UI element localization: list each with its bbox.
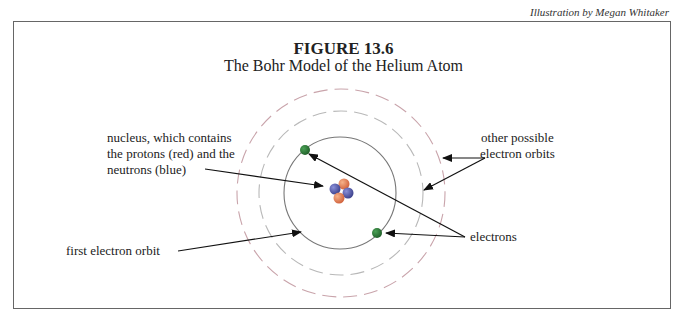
first-orbit-label: first electron orbit bbox=[66, 243, 160, 259]
first-orbit-arrow bbox=[178, 232, 301, 251]
electrons-label: electrons bbox=[470, 229, 517, 245]
other-orbits-arrow-inner bbox=[424, 158, 485, 190]
nucleus-icon bbox=[330, 179, 354, 204]
electron-icon bbox=[300, 145, 310, 155]
electrons-arrow-lower bbox=[386, 233, 465, 237]
bohr-model-diagram bbox=[0, 0, 687, 324]
other-orbits-label: other possible electron orbits bbox=[480, 130, 555, 162]
electron-icon bbox=[372, 228, 382, 238]
electrons-arrow-upper bbox=[309, 154, 465, 237]
nucleus-label: nucleus, which contains the protons (red… bbox=[107, 130, 235, 178]
